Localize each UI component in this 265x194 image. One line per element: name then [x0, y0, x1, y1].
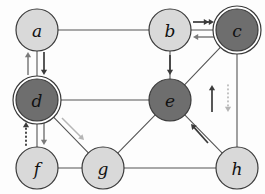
node-layer: abcdefgh — [13, 6, 261, 189]
node-label-c: c — [232, 21, 242, 41]
graph-node-e[interactable]: e — [149, 79, 191, 121]
node-label-d: d — [32, 91, 43, 111]
graph-node-g[interactable]: g — [82, 147, 124, 189]
arrow-c-to-b-icon — [193, 34, 214, 40]
arrow-d-to-f-icon — [41, 122, 47, 145]
graph-figure: abcdefgh — [0, 0, 265, 194]
node-label-g: g — [98, 159, 109, 179]
arrow-a-to-d-icon — [41, 52, 47, 75]
graph-edge-c-e — [185, 45, 223, 85]
graph-node-b[interactable]: b — [149, 9, 191, 51]
arrow-f-to-d-icon — [23, 122, 29, 145]
arrow-h-to-e-icon — [191, 124, 208, 143]
arrow-c-to-h-icon — [225, 85, 231, 112]
graph-node-d[interactable]: d — [13, 76, 61, 124]
edge-layer — [37, 30, 237, 168]
node-label-a: a — [32, 21, 42, 41]
node-label-e: e — [165, 91, 175, 111]
arrow-h-to-c-icon — [209, 85, 215, 112]
graph-node-a[interactable]: a — [16, 9, 58, 51]
graph-edge-e-g — [118, 115, 156, 153]
node-label-b: b — [165, 21, 176, 41]
graph-canvas: abcdefgh — [0, 0, 265, 194]
graph-node-h[interactable]: h — [216, 147, 258, 189]
arrow-b-to-e-icon — [167, 55, 173, 75]
graph-node-f[interactable]: f — [16, 147, 58, 189]
graph-node-c[interactable]: c — [213, 6, 261, 54]
graph-edge-e-h — [185, 115, 223, 153]
arrow-d-to-a-icon — [25, 52, 31, 75]
graph-edge-d-g — [52, 115, 89, 153]
node-label-h: h — [232, 159, 243, 179]
arrow-b-to-c-icon — [193, 19, 214, 25]
